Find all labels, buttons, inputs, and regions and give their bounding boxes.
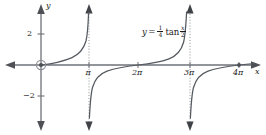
tangent-function-graph: y x 2 −2 π 2π 3π 4π y=14tanx2 (0, 0, 266, 135)
y-axis (37, 4, 45, 131)
asymptote-pi-arrow-down (85, 122, 92, 132)
y-tick-label-neg2: −2 (23, 92, 35, 100)
x-tick-label-pi: π (86, 69, 91, 77)
equation-lhs: y (142, 27, 147, 37)
equation-arg-denominator: 2 (180, 32, 186, 38)
equation-equals: = (148, 27, 155, 37)
x-tick-label-4pi: 4π (233, 69, 243, 77)
point-marker-4pi (237, 63, 241, 67)
equation-annotation: y=14tanx2 (142, 25, 186, 39)
asymptote-3pi-arrow-down (186, 122, 193, 132)
y-tick-label-2: 2 (27, 30, 32, 38)
x-axis-label: x (255, 68, 260, 76)
equation-coef-denominator: 4 (157, 32, 163, 38)
x-axis-arrow-left (5, 61, 15, 69)
y-axis-arrow-up (37, 4, 45, 14)
x-tick-label-2pi: 2π (132, 69, 142, 77)
asymptote-3pi-arrow-up (186, 4, 193, 14)
equation-function-name: tan (165, 27, 179, 37)
y-axis-label: y (46, 2, 51, 10)
curve-branch-1 (41, 12, 89, 65)
x-tick-label-3pi: 3π (184, 69, 194, 77)
equation-coefficient: 14 (157, 25, 163, 39)
equation-argument: x2 (180, 25, 186, 39)
curve-branch-3 (190, 64, 254, 119)
y-axis-arrow-down (37, 121, 45, 131)
